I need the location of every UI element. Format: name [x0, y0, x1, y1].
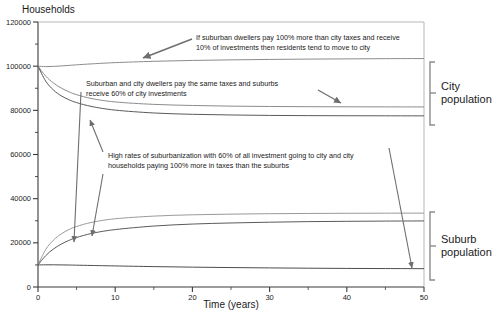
- y-axis-ticks: 020000400006000080000100000120000: [6, 18, 38, 292]
- suburb-population-bracket: Suburb population: [430, 212, 492, 280]
- series-line-suburb-5: [38, 221, 424, 265]
- y-tick-label: 40000: [10, 194, 31, 203]
- y-axis-title: Households: [22, 4, 75, 15]
- y-tick-label: 60000: [10, 150, 31, 159]
- city-bracket-label-line-2: population: [441, 93, 492, 105]
- x-tick-label: 40: [343, 293, 351, 302]
- x-tick-label: 30: [265, 293, 273, 302]
- y-tick-label: 20000: [10, 238, 31, 247]
- y-tick-label: 100000: [6, 62, 31, 71]
- y-tick-label: 120000: [6, 18, 31, 27]
- annotation-3-line-2: households paying 100% more in taxes tha…: [108, 161, 289, 170]
- annotation-2-line-1: Suburban and city dwellers pay the same …: [86, 79, 279, 88]
- annotation-1-line-1: If suburban dwellers pay 100% more than …: [196, 33, 400, 42]
- suburb-bracket-label-line-2: population: [441, 246, 492, 258]
- annotation-3-line-1: High rates of suburbanization with 60% o…: [108, 151, 354, 160]
- population-line-chart: Households 02000040000600008000010000012…: [0, 0, 501, 321]
- annotation-city-low-tax: If suburban dwellers pay 100% more than …: [143, 33, 400, 58]
- x-tick-label: 20: [188, 293, 196, 302]
- y-tick-label: 80000: [10, 106, 31, 115]
- city-population-bracket: City population: [430, 62, 492, 125]
- suburb-bracket-label-line-1: Suburb: [441, 233, 476, 245]
- city-bracket-label-line-1: City: [441, 80, 460, 92]
- x-tick-label: 50: [420, 293, 428, 302]
- annotation-2-line-2: receive 60% of city investments: [86, 89, 187, 98]
- series-line-suburb-6: [38, 265, 424, 269]
- x-axis-title: Time (years): [203, 299, 259, 310]
- figure-container: Households 02000040000600008000010000012…: [0, 0, 501, 321]
- y-tick-label: 0: [27, 283, 31, 292]
- series-line-city-1: [38, 59, 424, 67]
- x-tick-label: 0: [36, 293, 40, 302]
- annotation-high-suburbanization: High rates of suburbanization with 60% o…: [90, 120, 412, 268]
- x-tick-label: 10: [111, 293, 119, 302]
- annotation-1-line-2: 10% of investments then residents tend t…: [196, 43, 371, 52]
